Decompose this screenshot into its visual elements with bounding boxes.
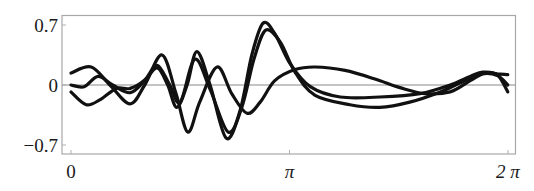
y-tick-label: 0.7 [34,15,58,36]
series-layer [71,22,508,138]
line-chart: 0.70−0.7 0π2 π [0,0,534,191]
y-tick-label: 0 [49,75,59,96]
series-curve-2 [71,22,508,138]
series-curve-1 [71,55,508,132]
x-tick-label: 2 π [496,161,520,182]
y-tick-label: −0.7 [24,135,58,156]
x-axis: 0π2 π [66,150,520,182]
x-tick-label: 0 [66,161,76,182]
y-axis: 0.70−0.7 [24,15,66,156]
x-tick-label: π [285,161,295,182]
series-curve-3 [71,30,508,133]
